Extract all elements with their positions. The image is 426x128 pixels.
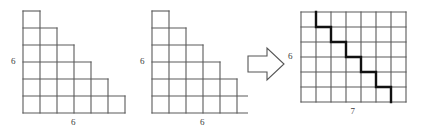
lattice-grid-height-label: 6 [288,52,293,61]
staircase-middle-drawing [130,0,248,128]
staircase-left-height-label: 6 [11,57,16,66]
staircase-middle-panel: 6 6 [130,0,248,128]
staircase-middle-width-label: 6 [200,118,205,127]
staircase-middle-height-label: 6 [140,57,145,66]
lattice-grid-width-label: 7 [351,107,356,116]
staircase-left-panel: 6 6 [0,0,142,128]
staircase-left-drawing [0,0,142,128]
figure-container: 6 6 6 6 6 7 [0,0,426,128]
lattice-grid-right-panel: 6 7 [282,0,426,128]
staircase-left-width-label: 6 [71,118,76,127]
